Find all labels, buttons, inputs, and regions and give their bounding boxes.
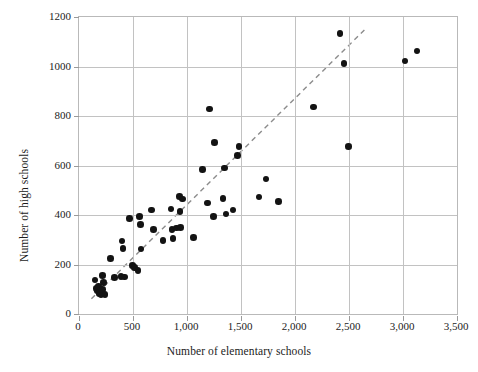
- data-point: [179, 196, 186, 203]
- data-point: [119, 238, 126, 245]
- gridline-horizontal: [79, 116, 457, 117]
- y-axis-title: Number of high schools: [18, 149, 30, 262]
- data-point: [126, 215, 133, 222]
- plot-area: [78, 16, 458, 315]
- data-point: [199, 166, 206, 173]
- gridline-horizontal: [79, 67, 457, 68]
- y-axis-tick: [74, 166, 79, 167]
- data-point: [414, 48, 421, 55]
- y-axis-tick: [74, 67, 79, 68]
- y-axis-tick: [74, 314, 79, 315]
- x-axis-tick-label: 3,000: [390, 320, 415, 332]
- data-point: [102, 291, 109, 298]
- y-axis-tick-label: 800: [30, 109, 71, 121]
- y-axis-tick-label: 400: [30, 208, 71, 220]
- data-point: [148, 207, 155, 214]
- y-axis-tick: [74, 215, 79, 216]
- scatter-chart: Number of high schools Number of element…: [0, 0, 478, 372]
- gridline-horizontal: [79, 166, 457, 167]
- data-point: [160, 237, 167, 244]
- x-axis-tick-label: 1,500: [228, 320, 253, 332]
- data-point: [210, 213, 217, 220]
- data-point: [107, 255, 114, 262]
- data-point: [211, 139, 218, 146]
- y-axis-tick-label: 0: [30, 307, 71, 319]
- data-point: [121, 274, 128, 281]
- data-point: [137, 221, 144, 228]
- data-point: [206, 106, 213, 113]
- y-axis-tick-label: 1000: [30, 60, 71, 72]
- x-axis-tick-label: 3,500: [444, 320, 469, 332]
- data-point: [204, 200, 211, 207]
- data-point: [120, 245, 127, 252]
- x-axis-tick-label: 500: [124, 320, 141, 332]
- data-point: [234, 152, 241, 159]
- data-point: [223, 211, 230, 218]
- y-axis-tick: [74, 116, 79, 117]
- data-point: [136, 213, 143, 220]
- y-axis-tick: [74, 265, 79, 266]
- data-point: [170, 235, 177, 242]
- data-point: [310, 104, 317, 111]
- x-axis-tick-label: 1,000: [174, 320, 199, 332]
- data-point: [263, 176, 270, 183]
- data-point: [337, 30, 344, 37]
- data-point: [177, 224, 184, 231]
- data-point: [150, 226, 157, 233]
- data-point: [99, 272, 106, 279]
- data-point: [230, 207, 237, 214]
- y-axis-tick: [74, 17, 79, 18]
- data-point: [345, 143, 352, 150]
- data-point: [168, 206, 175, 213]
- x-axis-tick-label: 2,500: [336, 320, 361, 332]
- data-point: [256, 194, 263, 201]
- x-axis-tick-label: 2,000: [282, 320, 307, 332]
- data-point: [138, 246, 145, 253]
- data-point: [111, 274, 118, 281]
- data-point: [100, 279, 107, 286]
- data-point: [135, 267, 142, 274]
- data-point: [221, 165, 228, 172]
- x-axis-tick-label: 0: [75, 320, 81, 332]
- data-point: [190, 234, 197, 241]
- data-point: [402, 58, 409, 65]
- y-axis-tick-label: 600: [30, 159, 71, 171]
- y-axis-tick-label: 1200: [30, 10, 71, 22]
- data-point: [177, 208, 184, 215]
- x-axis-title: Number of elementary schools: [0, 345, 478, 357]
- y-axis-tick-label: 200: [30, 258, 71, 270]
- data-point: [220, 195, 227, 202]
- data-point: [275, 198, 282, 205]
